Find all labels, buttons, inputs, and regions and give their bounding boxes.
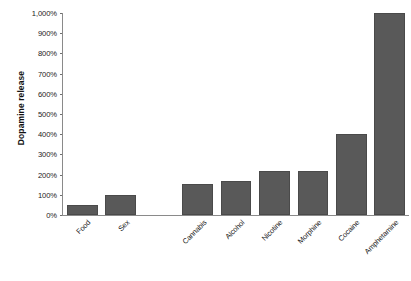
bar xyxy=(221,181,252,215)
plot-area xyxy=(63,13,409,215)
bar xyxy=(182,184,213,215)
y-axis-tick-label: 900% xyxy=(24,29,57,38)
bar xyxy=(67,205,98,215)
bar xyxy=(259,171,290,215)
y-axis-tick-label: 300% xyxy=(24,150,57,159)
bar xyxy=(336,134,367,215)
bar xyxy=(298,171,329,215)
y-axis-tick-label: 0% xyxy=(24,211,57,220)
y-axis-tick-labels: 0%100%200%300%400%500%600%700%800%900%1,… xyxy=(24,8,57,220)
y-axis-tick-label: 200% xyxy=(24,170,57,179)
y-axis-tick-label: 400% xyxy=(24,130,57,139)
x-axis-tick-label: Food xyxy=(75,218,93,236)
bar xyxy=(374,13,405,215)
bar xyxy=(105,195,136,215)
x-axis-tick-label: Alcohol xyxy=(223,218,246,241)
y-axis-tick-label: 1,000% xyxy=(24,9,57,18)
y-axis-tick-label: 800% xyxy=(24,49,57,58)
y-axis-tick-label: 100% xyxy=(24,190,57,199)
x-axis-tick-label: Amphetamine xyxy=(362,218,400,256)
x-axis-tick-label: Morphine xyxy=(296,218,324,246)
x-axis-tick-label: Nicotine xyxy=(260,218,285,243)
x-axis-tick-label: Cannabis xyxy=(180,218,208,246)
x-axis-tick-labels: FoodSexCannabisAlcoholNicotineMorphineCo… xyxy=(63,216,409,281)
y-axis-tick-label: 500% xyxy=(24,110,57,119)
y-axis-tick-label: 700% xyxy=(24,69,57,78)
y-axis-tick-label: 600% xyxy=(24,89,57,98)
x-axis-tick-label: Cocaine xyxy=(337,218,362,243)
bar-chart: Dopamine release 0%100%200%300%400%500%6… xyxy=(0,0,411,281)
x-axis-tick-label: Sex xyxy=(116,218,131,233)
